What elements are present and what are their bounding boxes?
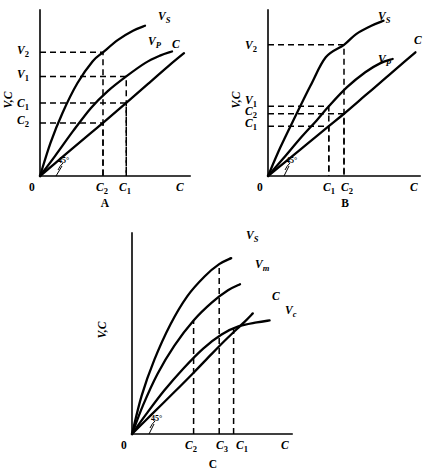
panel-b-ytick-v2: V2 [245,39,257,54]
panel-a-guide-v2 [40,52,103,176]
panel-b: 45° V2 V1 C2 C1 C1 C2 0 C V,C VS VP C B [230,10,422,209]
panel-b-xaxis-label: C [410,181,418,193]
panel-b-yaxis-label: V,C [230,91,242,108]
panel-a-ytick-v2: V2 [17,44,29,59]
panel-c-curve-vs [132,258,231,434]
panel-a-letter: A [101,197,110,209]
panel-a-xtick-c2: C2 [96,181,108,196]
panel-b-guide-v2 [268,45,344,176]
panel-b-angle-label: 45° [286,156,297,165]
panel-a: 45° V2 V1 C1 C2 C2 C1 0 C V,C VS VP C A [2,10,190,209]
panel-a-origin-label: 0 [29,181,35,193]
panel-c-yaxis-label: V,C [96,321,108,338]
panel-a-ytick-c2: C2 [17,114,29,129]
panel-a-label-c: C [172,38,180,50]
panel-c-label-vm: Vm [255,258,270,273]
panel-c-label-vc: Vc [285,304,297,319]
panel-a-label-vs: VS [158,10,171,25]
panel-a-ytick-c1: C1 [17,97,29,112]
panel-a-label-vp: VP [148,35,162,50]
panel-c-letter: C [209,458,217,470]
panel-c-xaxis-label: C [281,439,289,451]
panel-b-label-c: C [414,34,422,46]
figure-root: 45° V2 V1 C1 C2 C2 C1 0 C V,C VS VP C A [0,0,428,474]
figure-svg: 45° V2 V1 C1 C2 C2 C1 0 C V,C VS VP C A [0,0,428,474]
panel-c-label-c: C [272,290,280,302]
panel-a-angle-label: 45° [58,156,69,165]
panel-c-xtick-c2: C2 [185,439,197,454]
panel-a-yaxis-label: V,C [2,91,14,108]
panel-c: 45° C2 C3 C1 0 C V,C VS Vm C Vc C [96,229,297,470]
panel-c-angle-label: 45° [151,414,162,423]
panel-a-guide-v1 [40,76,126,176]
panel-a-xaxis-label: C [176,181,184,193]
panel-a-ytick-v1: V1 [17,68,29,83]
panel-b-origin-label: 0 [257,181,263,193]
panel-b-label-vp: VP [378,53,392,68]
panel-a-xtick-c1: C1 [119,181,131,196]
panel-b-xtick-c1: C1 [323,181,335,196]
panel-c-origin-label: 0 [121,439,127,451]
panel-c-xtick-c1: C1 [236,439,248,454]
panel-c-xtick-c3: C3 [216,439,228,454]
panel-b-curve-vs [268,21,384,176]
panel-b-xtick-c2: C2 [341,181,353,196]
panel-c-label-vs: VS [246,229,259,244]
panel-b-letter: B [341,197,349,209]
